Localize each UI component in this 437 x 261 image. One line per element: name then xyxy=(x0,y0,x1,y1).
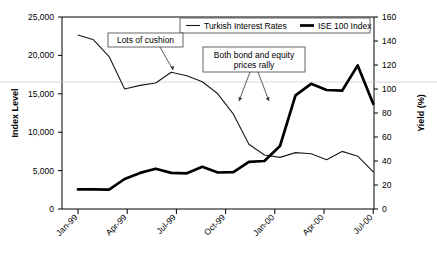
x-tick-apr-99: Apr-99 xyxy=(104,212,129,237)
annotation-arrow-prices-rally-left xyxy=(239,72,250,101)
right-axis-tick-labels: 160 140 120 100 80 60 40 20 0 xyxy=(382,12,396,214)
x-tick-apr-00: Apr-00 xyxy=(300,212,325,237)
y2-tick-0: 0 xyxy=(382,204,387,214)
y2-axis-title: Yield (%) xyxy=(416,94,426,132)
y2-tick-60: 60 xyxy=(382,132,392,142)
annotation-lots-of-cushion: Lots of cushion xyxy=(108,33,183,70)
annotation-prices-rally: Both bond and equity prices rally xyxy=(203,47,305,101)
y-tick-25000: 25,000 xyxy=(28,12,54,22)
y2-tick-80: 80 xyxy=(382,108,392,118)
y-tick-20000: 20,000 xyxy=(28,50,54,60)
annotation-label-prices-rally-line1: Both bond and equity xyxy=(214,50,295,60)
legend: Turkish Interest Rates ISE 100 Index xyxy=(180,18,372,33)
y-tick-10000: 10,000 xyxy=(28,127,54,137)
annotation-label-lots-of-cushion: Lots of cushion xyxy=(117,35,174,45)
y2-tick-20: 20 xyxy=(382,180,392,190)
x-tick-oct-99: Oct-99 xyxy=(202,212,227,237)
right-axis-ticks xyxy=(374,17,378,209)
chart-svg: 25,000 20,000 15,000 10,000 5,000 0 160 … xyxy=(0,0,437,261)
y-tick-0: 0 xyxy=(49,204,54,214)
y2-tick-40: 40 xyxy=(382,156,392,166)
chart-container: 25,000 20,000 15,000 10,000 5,000 0 160 … xyxy=(0,0,437,261)
left-axis-ticks xyxy=(58,17,62,209)
x-axis-tick-labels: Jan-99 Apr-99 Jul-99 Oct-99 Jan-00 Apr-0… xyxy=(54,212,375,238)
x-tick-jul-00: Jul-00 xyxy=(351,212,375,236)
y2-tick-100: 100 xyxy=(382,84,396,94)
annotation-label-prices-rally-line2: prices rally xyxy=(234,60,275,70)
x-tick-jan-00: Jan-00 xyxy=(251,212,277,238)
legend-label-turkish-interest-rates: Turkish Interest Rates xyxy=(204,21,287,31)
y2-tick-140: 140 xyxy=(382,36,396,46)
x-tick-jul-99: Jul-99 xyxy=(154,212,178,236)
y-tick-15000: 15,000 xyxy=(28,89,54,99)
annotation-arrow-prices-rally-right xyxy=(258,72,269,101)
y-axis-title: Index Level xyxy=(10,88,20,137)
y-tick-5000: 5,000 xyxy=(33,166,55,176)
left-axis-tick-labels: 25,000 20,000 15,000 10,000 5,000 0 xyxy=(28,12,54,214)
y2-tick-160: 160 xyxy=(382,12,396,22)
y2-tick-120: 120 xyxy=(382,60,396,70)
x-tick-jan-99: Jan-99 xyxy=(54,212,80,238)
legend-label-ise-100-index: ISE 100 Index xyxy=(318,21,372,31)
